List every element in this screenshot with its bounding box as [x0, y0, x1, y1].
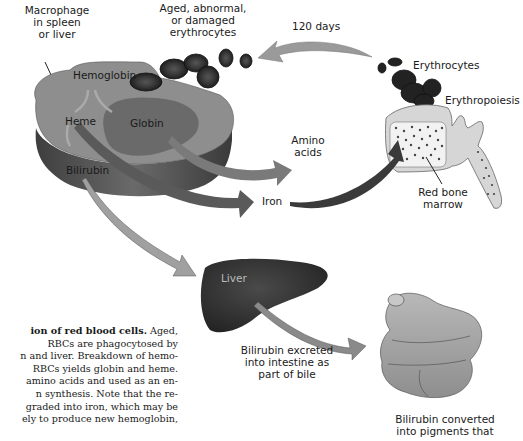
macrophage-label-line: or liver	[12, 28, 102, 40]
bile-label-line: part of bile	[232, 368, 342, 380]
lifespan-arrow	[258, 41, 372, 62]
caption-line: n synthesis. Note that the re-	[0, 388, 178, 401]
rbc-destruction-diagram: Macrophage in spleen or liver Aged, abno…	[0, 0, 523, 441]
globin-label: Globin	[130, 117, 164, 129]
hemoglobin-label: Hemoglobin	[73, 69, 136, 81]
caption-line: RBCs are phagocytosed by	[0, 338, 178, 351]
caption-line: ion of red blood cells. Aged,	[0, 325, 178, 338]
caption-line: ely to produce new hemoglobin,	[0, 413, 178, 426]
aged-label-line: or damaged	[148, 14, 258, 26]
marrow-label-line: Red bone	[413, 186, 473, 198]
bile-label-line: into intestine as	[232, 356, 342, 368]
red-bone-marrow-label: Red bone marrow	[413, 186, 473, 210]
bilirubin-label: Bilirubin	[66, 164, 109, 176]
intestine-pigments-label: Bilirubin converted into pigments that	[385, 413, 505, 437]
aged-label-line: Aged, abnormal,	[148, 2, 258, 14]
macrophage-label-line: Macrophage	[12, 4, 102, 16]
heme-label: Heme	[65, 115, 96, 127]
amino-acids-line: Amino	[288, 134, 328, 146]
macrophage-label-line: in spleen	[12, 16, 102, 28]
amino-acids-label: Amino acids	[288, 134, 328, 158]
amino-acids-line: acids	[288, 146, 328, 158]
aged-label-line: erythrocytes	[148, 26, 258, 38]
macrophage-label: Macrophage in spleen or liver	[12, 4, 102, 40]
marrow-label-line: marrow	[413, 198, 473, 210]
caption-line: graded into iron, which may be	[0, 401, 178, 414]
liver-label: Liver	[221, 272, 247, 284]
intestine-organ	[380, 293, 481, 397]
erythrocytes-label: Erythrocytes	[413, 59, 479, 71]
lifespan-label: 120 days	[292, 20, 340, 32]
bile-excretion-label: Bilirubin excreted into intestine as par…	[232, 344, 342, 380]
caption-line: RBCs yields globin and heme.	[0, 363, 178, 376]
caption-bold-lead: ion of red blood cells.	[30, 325, 147, 336]
intestine-label-line: into pigments that	[385, 425, 505, 437]
iron-label: Iron	[262, 195, 282, 207]
bile-label-line: Bilirubin excreted	[232, 344, 342, 356]
erythropoiesis-label: Erythropoiesis	[445, 94, 520, 106]
caption-line: amino acids and used as an en-	[0, 375, 178, 388]
figure-caption: ion of red blood cells. Aged, RBCs are p…	[0, 325, 178, 426]
caption-text: Aged,	[147, 325, 178, 336]
aged-erythrocytes-label: Aged, abnormal, or damaged erythrocytes	[148, 2, 258, 38]
intestine-label-line: Bilirubin converted	[385, 413, 505, 425]
liver-organ	[201, 259, 328, 333]
caption-line: n and liver. Breakdown of hemo-	[0, 350, 178, 363]
